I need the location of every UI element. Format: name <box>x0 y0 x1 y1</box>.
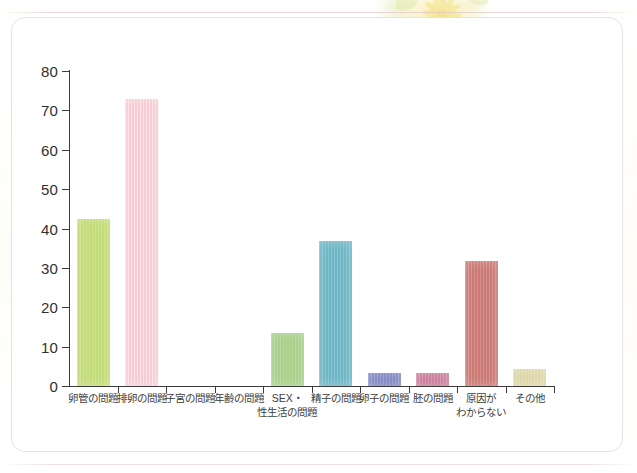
bar <box>271 333 304 386</box>
y-axis-tick <box>62 268 69 269</box>
bar <box>416 373 449 386</box>
y-axis-tick-label: 20 <box>41 299 58 316</box>
chart-screenshot: 01020304050607080 卵管の問題排卵の問題子宮の問題年齢の問題SE… <box>0 0 637 473</box>
y-axis-tick <box>62 347 69 348</box>
y-axis-tick <box>62 110 69 111</box>
bar-fill <box>416 373 449 386</box>
bar-fill <box>125 99 158 386</box>
bar <box>125 99 158 386</box>
y-axis-tick <box>62 386 69 387</box>
bar <box>465 261 498 386</box>
y-axis-tick <box>62 150 69 151</box>
y-axis-tick-label: 70 <box>41 102 58 119</box>
bar-fill <box>368 373 401 386</box>
y-axis-tick-label: 60 <box>41 141 58 158</box>
plot-area: 01020304050607080 <box>69 71 554 386</box>
bar-fill <box>465 261 498 386</box>
y-axis-tick-label: 80 <box>41 63 58 80</box>
y-axis-tick <box>62 189 69 190</box>
y-axis-tick-label: 10 <box>41 338 58 355</box>
bar <box>319 241 352 386</box>
bar <box>77 219 110 386</box>
y-axis-tick <box>62 71 69 72</box>
bar <box>513 369 546 386</box>
bar-fill <box>513 369 546 386</box>
bar-fill <box>271 333 304 386</box>
bar-chart: 01020304050607080 卵管の問題排卵の問題子宮の問題年齢の問題SE… <box>0 0 637 473</box>
y-axis-tick-label: 30 <box>41 259 58 276</box>
x-axis-category-label: その他 <box>497 392 564 406</box>
bar <box>368 373 401 386</box>
y-axis-tick <box>62 229 69 230</box>
bar-fill <box>77 219 110 386</box>
y-axis-tick-label: 50 <box>41 181 58 198</box>
y-axis-tick-label: 40 <box>41 220 58 237</box>
bar-fill <box>319 241 352 386</box>
y-axis-tick <box>62 307 69 308</box>
y-axis-tick-label: 0 <box>49 378 58 395</box>
